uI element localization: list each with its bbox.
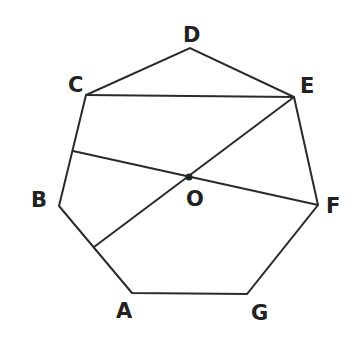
center-point-O <box>186 174 193 181</box>
label-G: G <box>251 301 268 325</box>
segment-CE <box>86 95 294 97</box>
label-E: E <box>300 74 314 98</box>
label-B: B <box>31 188 47 212</box>
heptagon-outline <box>59 48 318 294</box>
label-C: C <box>68 73 83 97</box>
label-D: D <box>183 23 200 47</box>
label-F: F <box>326 194 340 218</box>
label-O: O <box>186 187 204 211</box>
label-A: A <box>116 299 133 323</box>
segment-E-through-O <box>94 97 294 247</box>
heptagon-diagram: D C E B O F A G <box>0 0 354 340</box>
